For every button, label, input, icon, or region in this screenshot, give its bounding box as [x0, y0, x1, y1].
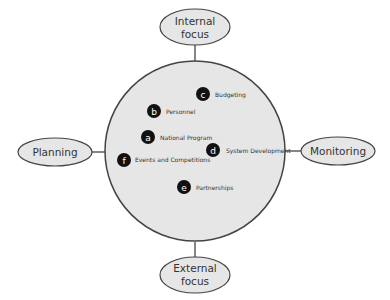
axis-top-line2: focus [181, 28, 209, 40]
diagram-canvas: Internal focus External focus Planning M… [0, 0, 390, 300]
node-letter: b [151, 107, 157, 117]
node-label: Personnel [166, 108, 196, 115]
axis-monitoring: Monitoring [301, 137, 375, 165]
node-label: Budgeting [215, 91, 246, 99]
node-label: System Development [226, 147, 291, 155]
axis-external-focus: External focus [160, 257, 230, 293]
node-letter: c [201, 90, 206, 100]
node-label: National Program [160, 134, 212, 142]
node-letter: a [145, 133, 151, 143]
node-letter: d [210, 146, 216, 156]
node-label: Partnerships [196, 184, 233, 192]
axis-internal-focus: Internal focus [160, 9, 230, 45]
node-letter: e [181, 183, 187, 193]
node-label: Events and Competitions [135, 156, 210, 164]
axis-planning: Planning [18, 138, 92, 166]
axis-right-label: Monitoring [310, 145, 366, 157]
axis-top-line1: Internal [175, 15, 215, 27]
axis-left-label: Planning [32, 146, 77, 158]
axis-bottom-line1: External [173, 262, 217, 274]
axis-bottom-line2: focus [181, 275, 209, 287]
